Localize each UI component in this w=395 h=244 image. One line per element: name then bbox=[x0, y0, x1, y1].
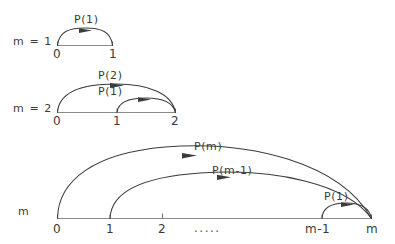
row-2-arc-p1-label: P(1) bbox=[98, 85, 123, 98]
row-3-tick-mminus1-label: m-1 bbox=[305, 222, 330, 236]
row-2-tick-1-label: 1 bbox=[113, 114, 121, 128]
row-1-group bbox=[57, 28, 113, 46]
row-3-tick-2-label: 2 bbox=[158, 222, 166, 236]
row-2-arc-p2-label: P(2) bbox=[98, 69, 123, 82]
row-3-group bbox=[57, 146, 372, 219]
figure-container: m = 1 m = 2 m P(1) 0 1 P(2) P(1) 0 1 2 P… bbox=[0, 0, 395, 244]
row-2-tick-2-label: 2 bbox=[171, 114, 179, 128]
row-3-tick-m-label: m bbox=[366, 222, 378, 236]
row-1-tick-0-label: 0 bbox=[53, 47, 61, 61]
row-2-label: m = 2 bbox=[13, 102, 52, 115]
row-1-arc-p1-arrowhead bbox=[79, 28, 92, 33]
row-3-arc-p1-label: P(1) bbox=[324, 190, 349, 203]
row-3-label: m bbox=[18, 205, 30, 218]
row-3-arc-pm bbox=[58, 146, 372, 219]
row-3-tick-1-label: 1 bbox=[106, 222, 114, 236]
row-3-arc-pm-label: P(m) bbox=[194, 140, 222, 153]
diagram-canvas: m = 1 m = 2 m P(1) 0 1 P(2) P(1) 0 1 2 P… bbox=[0, 0, 395, 244]
row-2-tick-0-label: 0 bbox=[53, 114, 61, 128]
row-3-arc-pm-arrowhead bbox=[182, 153, 197, 159]
row-1-tick-1-label: 1 bbox=[109, 47, 117, 61]
row-3-tick-0-label: 0 bbox=[53, 222, 61, 236]
row-1-label: m = 1 bbox=[13, 35, 52, 48]
row-1-arc-p1-label: P(1) bbox=[74, 13, 99, 26]
row-3-tick-ellipsis-label: ..... bbox=[194, 221, 221, 235]
row-3-arc-pm1-label: P(m-1) bbox=[212, 164, 253, 177]
